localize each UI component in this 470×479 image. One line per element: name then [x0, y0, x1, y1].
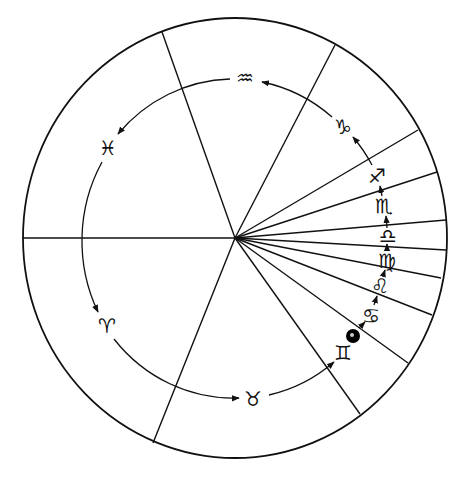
sagittarius-icon: ♐ — [368, 164, 386, 188]
arc-aries-taurus — [114, 339, 239, 398]
leo-icon: ♌ — [371, 274, 389, 298]
house-spoke — [235, 172, 437, 238]
virgo-icon: ♍ — [378, 249, 396, 273]
scorpio-icon: ♏ — [375, 194, 393, 218]
taurus-icon: ♉ — [244, 387, 262, 411]
zodiac-wheel: ♒♓♈♉♊♋♌♍♎♏♐♑ — [0, 0, 470, 479]
aries-icon: ♈ — [98, 314, 116, 338]
house-spoke — [153, 238, 235, 443]
arc-sagittarius-capricorn — [353, 137, 372, 165]
arc-taurus-gemini — [269, 362, 334, 395]
pisces-icon: ♓ — [99, 136, 117, 160]
aquarius-icon: ♒ — [236, 66, 254, 90]
house-spoke — [235, 238, 432, 315]
house-spoke — [162, 32, 235, 238]
arc-aquarius-pisces — [118, 79, 230, 134]
cancer-icon: ♋ — [362, 304, 380, 328]
planet-highlight-icon — [350, 333, 354, 337]
libra-icon: ♎ — [379, 224, 397, 248]
capricorn-icon: ♑ — [334, 115, 352, 139]
house-spoke — [235, 220, 446, 238]
arc-capricorn-aquarius — [262, 82, 332, 117]
arc-pisces-aries — [82, 162, 102, 312]
planet-marker — [346, 329, 360, 343]
gemini-icon: ♊ — [334, 341, 352, 365]
